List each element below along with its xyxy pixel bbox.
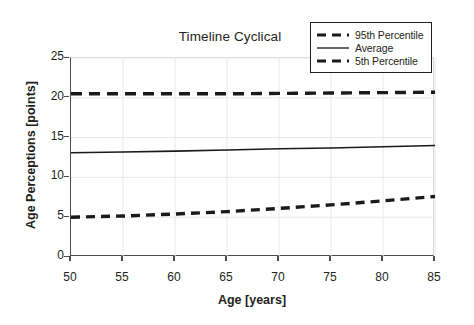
y-tick-label: 15 [30, 129, 64, 143]
legend-label: Average [355, 42, 393, 54]
x-tick-mark [69, 256, 70, 261]
y-tick-label: 5 [30, 208, 64, 222]
data-series-group [71, 58, 435, 257]
legend-line-swatch [317, 29, 349, 41]
y-tick-mark [64, 96, 69, 97]
plot-area [70, 57, 434, 256]
y-tick-label: 0 [30, 248, 64, 262]
legend-label: 5th Percentile [355, 55, 418, 67]
y-tick-mark [64, 256, 69, 257]
x-tick-mark [121, 256, 122, 261]
x-tick-mark [381, 256, 382, 261]
x-tick-mark [225, 256, 226, 261]
legend-item: Average [317, 41, 425, 54]
y-tick-label: 10 [30, 168, 64, 182]
y-tick-label: 25 [30, 49, 64, 63]
x-tick-label: 85 [414, 270, 454, 284]
x-tick-label: 80 [362, 270, 402, 284]
y-axis-tick-labels: 0510152025 [26, 57, 64, 256]
y-tick-mark [64, 176, 69, 177]
x-tick-mark [329, 256, 330, 261]
x-tick-mark [173, 256, 174, 261]
legend-line-swatch [317, 42, 349, 54]
legend-item: 5th Percentile [317, 54, 425, 67]
legend-line-swatch [317, 55, 349, 67]
x-tick-label: 70 [258, 270, 298, 284]
x-tick-label: 50 [50, 270, 90, 284]
chart-legend: 95th PercentileAverage5th Percentile [310, 22, 432, 73]
chart-title: Timeline Cyclical [150, 29, 310, 44]
x-tick-label: 75 [310, 270, 350, 284]
y-tick-mark [64, 57, 69, 58]
series-line-95th-percentile [71, 92, 435, 94]
x-axis-title: Age [years] [70, 293, 434, 307]
chart-figure: Timeline Cyclical Age Perceptions [point… [0, 0, 474, 325]
x-tick-mark [277, 256, 278, 261]
x-tick-label: 60 [154, 270, 194, 284]
x-axis-tick-labels: 5055606570758085 [70, 263, 434, 281]
legend-item: 95th Percentile [317, 28, 425, 41]
series-line-5th-percentile [71, 197, 435, 218]
legend-label: 95th Percentile [355, 29, 424, 41]
x-tick-label: 65 [206, 270, 246, 284]
y-tick-mark [64, 136, 69, 137]
x-tick-mark [433, 256, 434, 261]
series-line-average [71, 146, 435, 153]
y-tick-label: 20 [30, 89, 64, 103]
y-tick-mark [64, 216, 69, 217]
x-tick-label: 55 [102, 270, 142, 284]
